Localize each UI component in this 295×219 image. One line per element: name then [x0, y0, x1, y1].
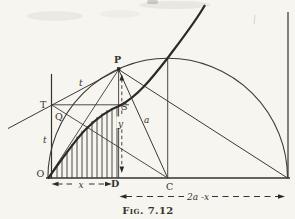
point-label-T: T — [40, 99, 47, 110]
smudge — [27, 11, 83, 21]
point-P-marker — [117, 67, 120, 70]
segment-TC — [52, 105, 168, 178]
point-label-D: D — [111, 178, 119, 189]
scan-artifacts — [27, 0, 255, 24]
arrowhead-left-icon — [52, 182, 59, 187]
point-label-Q: Q — [55, 111, 63, 122]
smudge — [254, 15, 255, 24]
ordinate-label-y: y — [117, 119, 124, 129]
smudge — [100, 10, 140, 18]
figure-7-12: P T Q S O D C t t y a x 2a -x Fig. 7.12 — [0, 0, 295, 219]
arrowhead-right-icon — [278, 194, 285, 199]
point-label-O: O — [37, 168, 45, 179]
intercept-label-t: t — [43, 135, 47, 145]
remainder-label-2a-x: 2a -x — [186, 192, 209, 202]
radius-label-a: a — [144, 115, 149, 125]
segment-OP — [48, 70, 119, 179]
point-label-C: C — [166, 181, 173, 192]
smudge — [147, 0, 158, 4]
point-label-P: P — [114, 54, 121, 65]
arrowhead-down-icon — [120, 167, 125, 174]
arrowhead-left-icon — [120, 194, 127, 199]
arrowhead-up-icon — [120, 74, 125, 81]
hatched-area — [57, 106, 117, 178]
figure-caption: Fig. 7.12 — [122, 205, 173, 216]
tangent-label-t: t — [79, 78, 83, 88]
geometry-diagram: P T Q S O D C t t y a x 2a -x Fig. 7.12 — [0, 0, 295, 219]
abscissa-label-x: x — [79, 180, 84, 190]
point-label-S: S — [121, 101, 128, 112]
